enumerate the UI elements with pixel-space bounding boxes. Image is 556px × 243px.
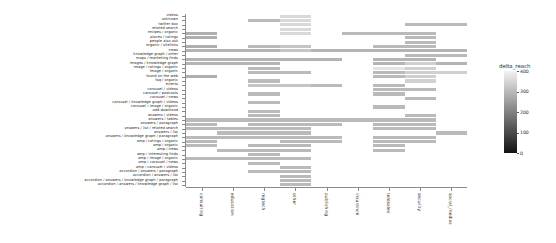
heatmap-cell [405, 71, 436, 74]
x-axis-tick-mark [420, 188, 421, 191]
heatmap-cell [373, 58, 404, 61]
heatmap-cell [280, 179, 311, 182]
x-axis-tick-mark [389, 188, 390, 191]
heatmap-cell [248, 136, 279, 139]
y-axis-tick-mark [182, 85, 185, 86]
heatmap-cell [405, 49, 436, 52]
heatmap-cell [373, 105, 404, 108]
y-axis-tick-mark [182, 68, 185, 69]
heatmap-cell [405, 36, 436, 39]
x-axis-tick-mark [358, 188, 359, 191]
heatmap-cell [186, 118, 217, 121]
y-axis-tick-mark [182, 77, 185, 78]
heatmap-cell [280, 127, 311, 130]
heatmap-cell [280, 131, 311, 134]
y-axis-tick-mark [182, 81, 185, 82]
heatmap-cell [280, 149, 311, 152]
heatmap-cell [248, 67, 279, 70]
heatmap-cell [405, 127, 436, 130]
heatmap-cell [217, 118, 248, 121]
heatmap-cell [217, 49, 248, 52]
heatmap-cell [405, 136, 436, 139]
y-axis-tick-mark [182, 25, 185, 26]
y-axis-tick-mark [182, 98, 185, 99]
heatmap-figure: videosunknowntwitter boxrelated searchre… [0, 0, 556, 243]
heatmap-cell [405, 45, 436, 48]
heatmap-cell [217, 127, 248, 130]
heatmap-cell [186, 75, 217, 78]
heatmap-cell [436, 131, 467, 134]
heatmap-cell [373, 118, 404, 121]
heatmap-cell [186, 58, 217, 61]
y-axis-tick-mark [182, 137, 185, 138]
y-axis-tick-mark [182, 111, 185, 112]
heatmap-cell [373, 140, 404, 143]
x-axis-tick-mark [202, 188, 203, 191]
y-axis-tick-mark [182, 185, 185, 186]
y-axis-tick-mark [182, 55, 185, 56]
x-axis-tick-mark [451, 188, 452, 191]
heatmap-cell [186, 136, 217, 139]
colorbar-tick-label: 300 [520, 89, 529, 94]
heatmap-cell [405, 32, 436, 35]
heatmap-cell [248, 79, 279, 82]
heatmap-cell [248, 144, 279, 147]
heatmap-cell [311, 49, 342, 52]
heatmap-cell [186, 157, 217, 160]
y-axis-tick-mark [182, 129, 185, 130]
heatmap-cell [436, 54, 467, 57]
heatmap-cell [280, 28, 311, 31]
heatmap-cell [280, 71, 311, 74]
heatmap-cell [280, 45, 311, 48]
heatmap-cell [311, 84, 342, 87]
heatmap-cell [186, 123, 217, 126]
y-axis-tick-mark [182, 155, 185, 156]
y-axis-tick-mark [182, 42, 185, 43]
heatmap-cell [405, 62, 436, 65]
heatmap-cell [373, 67, 404, 70]
heatmap-cell [280, 118, 311, 121]
heatmap-cell [248, 49, 279, 52]
heatmap-cell [280, 140, 311, 143]
heatmap-cell [280, 166, 311, 169]
heatmap-cell [373, 144, 404, 147]
y-axis-tick-mark [182, 33, 185, 34]
heatmap-cell [373, 136, 404, 139]
x-axis-tick-mark [295, 188, 296, 191]
x-axis-tick-label: insurance [355, 193, 360, 215]
y-axis-tick-mark [182, 116, 185, 117]
heatmap-cell [280, 23, 311, 26]
heatmap-cell [373, 127, 404, 130]
heatmap-cell [405, 114, 436, 117]
heatmap-cell [436, 62, 467, 65]
heatmap-cell [217, 157, 248, 160]
x-axis-tick-label: social_medias [448, 193, 453, 225]
heatmap-cell [373, 84, 404, 87]
y-axis-tick-mark [182, 51, 185, 52]
y-axis-tick-mark [182, 150, 185, 151]
heatmap-plot-area [186, 14, 467, 187]
y-axis-tick-mark [182, 176, 185, 177]
heatmap-cell [280, 170, 311, 173]
heatmap-cell [248, 101, 279, 104]
y-axis-tick-mark [182, 142, 185, 143]
colorbar-tick-mark [517, 71, 519, 72]
heatmap-cell [248, 118, 279, 121]
heatmap-cell [248, 131, 279, 134]
heatmap-cell [373, 45, 404, 48]
heatmap-cell [248, 149, 279, 152]
heatmap-cell [186, 32, 217, 35]
colorbar-gradient [504, 71, 517, 153]
heatmap-cell [405, 41, 436, 44]
heatmap-cell [186, 127, 217, 130]
heatmap-cell [405, 97, 436, 100]
heatmap-cell [248, 162, 279, 165]
heatmap-cell [342, 49, 373, 52]
y-axis-tick-mark [182, 163, 185, 164]
heatmap-cell [280, 157, 311, 160]
heatmap-cell [373, 75, 404, 78]
heatmap-cell [373, 32, 404, 35]
heatmap-cell [248, 19, 279, 22]
heatmap-cell [405, 67, 436, 70]
y-axis-tick-mark [182, 124, 185, 125]
